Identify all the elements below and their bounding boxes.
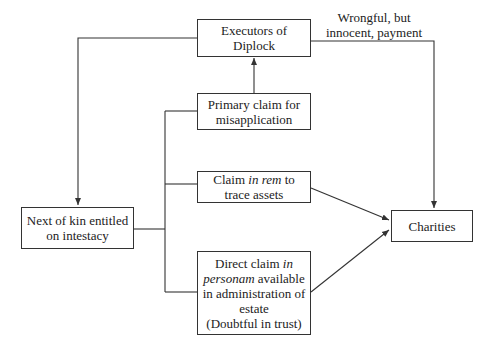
in-personam-line1: Direct claim in xyxy=(215,256,293,271)
wrongful-payment-label: Wrongful, but innocent, payment xyxy=(316,10,432,40)
in-rem-post: to xyxy=(281,172,294,187)
in-personam-line3: in administration of xyxy=(203,286,306,301)
next-of-kin-line2: on intestacy xyxy=(46,228,108,243)
primary-claim-box: Primary claim for misapplication xyxy=(197,93,311,130)
next-of-kin-box: Next of kin entitled on intestacy xyxy=(21,207,134,249)
primary-line1: Primary claim for xyxy=(208,97,300,112)
in-personam-pre: Direct claim xyxy=(215,256,283,271)
in-rem-pre: Claim xyxy=(213,172,248,187)
wrongful-line1: Wrongful, but xyxy=(316,10,432,25)
in-personam-italic1: in xyxy=(283,256,293,271)
next-of-kin-line1: Next of kin entitled xyxy=(27,213,128,228)
executors-line1: Executors of xyxy=(221,23,287,38)
in-personam-line4: estate xyxy=(239,301,269,316)
in-personam-line5: (Doubtful in trust) xyxy=(206,316,301,331)
charities-box: Charities xyxy=(391,210,473,242)
wrongful-line2: innocent, payment xyxy=(316,25,432,40)
in-personam-line2: personam available xyxy=(203,271,304,286)
in-rem-line1: Claim in rem to xyxy=(213,172,295,187)
executors-line2: Diplock xyxy=(233,38,275,53)
charities-label: Charities xyxy=(409,219,456,234)
claim-in-personam-box: Direct claim in personam available in ad… xyxy=(197,251,311,335)
primary-line2: misapplication xyxy=(216,112,293,127)
in-rem-italic: in rem xyxy=(248,172,281,187)
in-personam-post: available xyxy=(255,271,305,286)
in-rem-line2: trace assets xyxy=(225,187,284,202)
claim-in-rem-box: Claim in rem to trace assets xyxy=(197,171,311,203)
in-personam-italic2: personam xyxy=(203,271,254,286)
executors-of-diplock-box: Executors of Diplock xyxy=(197,19,311,57)
